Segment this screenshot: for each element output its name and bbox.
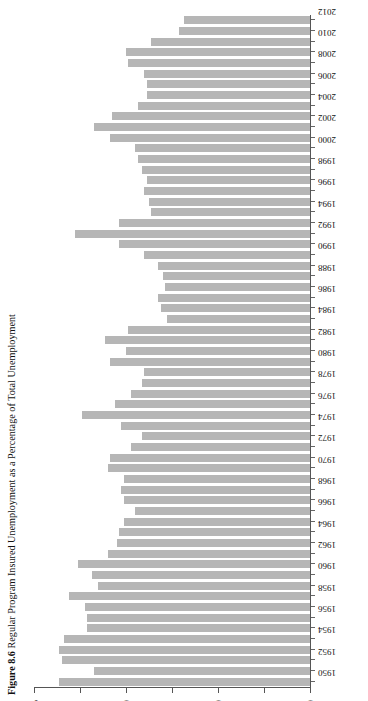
category-axis-tick xyxy=(311,510,315,511)
bar xyxy=(112,112,310,120)
bar xyxy=(62,656,310,664)
category-axis-tick xyxy=(311,585,315,586)
value-axis-tick: 20 xyxy=(218,688,219,693)
category-axis-label: 2002 xyxy=(318,114,336,124)
bar xyxy=(126,347,310,355)
category-axis-tick xyxy=(311,371,315,372)
bar xyxy=(163,272,310,280)
category-axis-label: 1972 xyxy=(318,434,336,444)
bar xyxy=(135,507,310,515)
value-axis-tick: 30 xyxy=(172,688,173,693)
category-axis-tick xyxy=(311,563,315,564)
bar xyxy=(59,678,310,686)
category-axis-tick xyxy=(311,670,315,671)
category-axis-tick xyxy=(311,147,315,148)
category-axis-tick xyxy=(311,649,315,650)
bar xyxy=(110,358,310,366)
bar xyxy=(151,208,310,216)
bars-container xyxy=(34,15,310,687)
bar xyxy=(151,38,310,46)
category-axis-tick xyxy=(311,382,315,383)
bar xyxy=(94,123,310,131)
category-axis-tick xyxy=(311,361,315,362)
category-axis-tick xyxy=(311,329,315,330)
category-axis-tick xyxy=(311,435,315,436)
category-axis-tick xyxy=(311,105,315,106)
category-axis-tick xyxy=(311,574,315,575)
category-axis-label: 2008 xyxy=(318,50,336,60)
bar xyxy=(87,624,310,632)
bar xyxy=(124,496,310,504)
category-axis-tick xyxy=(311,681,315,682)
bar xyxy=(161,304,311,312)
category-axis-label: 1968 xyxy=(318,476,336,486)
bar xyxy=(144,70,310,78)
category-axis-tick xyxy=(311,137,315,138)
category-axis-tick xyxy=(311,83,315,84)
bar-chart: 0102030405060% 1950195219541956195819601… xyxy=(34,15,334,687)
bar xyxy=(184,16,311,24)
category-axis-label: 1958 xyxy=(318,583,336,593)
bar xyxy=(64,635,310,643)
category-axis-tick xyxy=(311,659,315,660)
bar xyxy=(121,422,310,430)
category-axis-tick xyxy=(311,393,315,394)
bar xyxy=(135,144,310,152)
category-axis-tick xyxy=(311,553,315,554)
category-axis-label: 1992 xyxy=(318,220,336,230)
category-axis-tick xyxy=(311,339,315,340)
bar xyxy=(115,400,311,408)
category-axis-tick xyxy=(311,638,315,639)
category-axis-tick xyxy=(311,275,315,276)
category-axis-tick xyxy=(311,350,315,351)
category-axis-label: 1954 xyxy=(318,626,336,636)
value-axis-tick: 40 xyxy=(126,688,127,693)
category-axis-label: 1950 xyxy=(318,668,336,678)
category-axis-tick xyxy=(311,190,315,191)
category-axis-tick xyxy=(311,617,315,618)
category-axis-tick xyxy=(311,211,315,212)
bar xyxy=(85,603,310,611)
bar xyxy=(98,582,310,590)
bar xyxy=(167,315,310,323)
category-axis-tick xyxy=(311,19,315,20)
value-axis-line: 0102030405060% xyxy=(34,687,311,688)
category-axis-label: 1976 xyxy=(318,391,336,401)
category-axis-label: 1966 xyxy=(318,498,336,508)
category-axis-label: 2010 xyxy=(318,28,336,38)
category-axis-label: 2006 xyxy=(318,71,336,81)
category-axis-tick xyxy=(311,115,315,116)
category-axis-label: 1952 xyxy=(318,647,336,657)
category-axis-tick xyxy=(311,201,315,202)
category-axis-label: 1988 xyxy=(318,263,336,273)
value-axis-tick: 0 xyxy=(310,688,311,693)
bar xyxy=(92,571,311,579)
category-axis-tick xyxy=(311,233,315,234)
category-axis-tick xyxy=(311,62,315,63)
bar xyxy=(165,283,310,291)
category-axis-tick xyxy=(311,286,315,287)
bar xyxy=(75,230,310,238)
bar xyxy=(110,134,310,142)
category-axis-label: 1998 xyxy=(318,156,336,166)
category-axis-label: 1956 xyxy=(318,604,336,614)
category-axis-label: 1996 xyxy=(318,178,336,188)
category-axis-label: 1980 xyxy=(318,348,336,358)
category-axis-tick xyxy=(311,73,315,74)
bar xyxy=(82,411,310,419)
category-axis-tick xyxy=(311,627,315,628)
value-axis-tick: 60% xyxy=(34,688,35,693)
bar xyxy=(108,550,310,558)
category-axis-label: 2000 xyxy=(318,135,336,145)
bar xyxy=(131,443,310,451)
bar xyxy=(144,251,310,259)
bar xyxy=(108,464,310,472)
category-axis-tick xyxy=(311,158,315,159)
category-axis-label: 1970 xyxy=(318,455,336,465)
category-axis-tick xyxy=(311,51,315,52)
bar xyxy=(110,454,310,462)
category-axis-tick xyxy=(311,499,315,500)
category-axis-label: 2012 xyxy=(318,7,336,17)
category-axis-tick xyxy=(311,318,315,319)
bar xyxy=(59,646,310,654)
